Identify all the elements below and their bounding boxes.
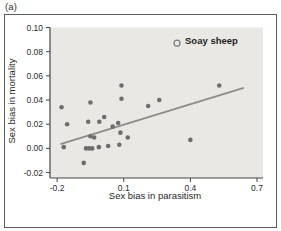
y-tick-label: 0.02 <box>26 119 43 129</box>
data-point <box>102 115 107 120</box>
data-point <box>88 100 93 105</box>
y-tick-label: 0.04 <box>26 95 43 105</box>
data-point <box>119 83 124 88</box>
data-point <box>118 130 123 135</box>
x-axis-title: Sex bias in parasitism <box>109 190 201 201</box>
y-tick-label: -0.02 <box>24 168 44 178</box>
plot-area <box>50 28 263 179</box>
data-point <box>146 104 151 109</box>
y-axis-title: Sex bias in mortality <box>6 58 17 143</box>
soay-sheep-annotation-label: Soay sheep <box>185 35 238 46</box>
data-point <box>61 145 66 150</box>
y-tick-label: 0.08 <box>26 47 43 57</box>
figure-panel-a: (a) 0.100.080.060.040.020.00-0.02-0.20.1… <box>0 0 281 231</box>
data-point <box>188 138 193 143</box>
y-tick-label: 0.06 <box>26 71 43 81</box>
data-point <box>90 146 95 151</box>
data-point <box>92 135 97 140</box>
x-tick-label: -0.2 <box>50 183 65 193</box>
data-point <box>125 135 130 140</box>
scatter-chart: 0.100.080.060.040.020.00-0.02-0.20.10.40… <box>5 15 276 227</box>
data-point <box>217 83 222 88</box>
data-point <box>110 124 115 129</box>
data-point <box>81 161 86 166</box>
data-point <box>97 119 102 124</box>
data-point <box>59 105 64 110</box>
data-point <box>65 122 70 127</box>
data-point <box>106 144 111 149</box>
data-point <box>117 142 122 147</box>
x-tick-label: 0.7 <box>251 183 263 193</box>
plot-frame: 0.100.080.060.040.020.00-0.02-0.20.10.40… <box>4 14 277 228</box>
data-point <box>119 97 124 102</box>
data-point <box>86 119 91 124</box>
y-tick-label: 0.10 <box>26 23 43 33</box>
data-point <box>116 121 121 126</box>
y-tick-label: 0.00 <box>26 143 43 153</box>
data-point <box>97 145 102 150</box>
panel-label: (a) <box>5 1 17 12</box>
data-point <box>157 98 162 103</box>
